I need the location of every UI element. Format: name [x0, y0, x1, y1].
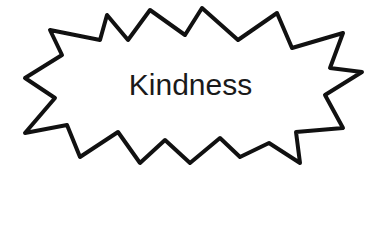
burst-label: Kindness: [0, 68, 379, 102]
burst-shape: [0, 0, 379, 249]
